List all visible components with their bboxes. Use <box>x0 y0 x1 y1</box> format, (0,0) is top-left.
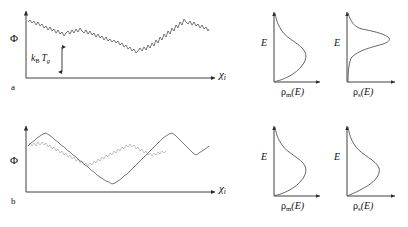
panel-b-dist-s-e-label: E <box>334 152 340 162</box>
panel-b-landscape-axes <box>26 126 215 192</box>
panel-a-dist-s-axes <box>347 12 395 82</box>
panel-b-dist-m-label: ρm(E) <box>281 201 304 212</box>
panel-b-dist-m-curve <box>275 127 306 196</box>
figure-canvas: Φ χi kBTg a E ρm(E) E ρs(E) Φ χi b E ρm(… <box>0 0 408 227</box>
figure-svg <box>0 0 408 227</box>
panel-b-landscape-curve <box>28 133 209 184</box>
panel-b-phi-axis-label: Φ <box>10 155 18 166</box>
panel-a-dist-s-curve <box>348 13 389 82</box>
panel-b-dist-s-label: ρs(E) <box>353 201 373 212</box>
panel-a-landscape-curve <box>28 19 209 53</box>
panel-a-dist-m-e-label: E <box>261 38 267 48</box>
panel-b-letter: b <box>11 197 16 206</box>
panel-a-dist-m-label: ρm(E) <box>281 87 304 98</box>
panel-a-chi-axis-label: χi <box>219 69 226 81</box>
panel-b-dist-s-axes <box>347 126 395 196</box>
panel-b-dist-s-curve <box>348 127 379 196</box>
panel-a-letter: a <box>11 83 15 92</box>
panel-a-kbtg-label: kBTg <box>31 54 50 64</box>
panel-b-dist-m-e-label: E <box>261 152 267 162</box>
panel-a-dist-s-label: ρs(E) <box>353 87 373 98</box>
panel-a-dist-m-curve <box>275 13 306 82</box>
panel-b-chi-axis-label: χi <box>219 183 226 195</box>
panel-a-phi-axis-label: Φ <box>10 33 18 44</box>
panel-a-dist-s-e-label: E <box>334 38 340 48</box>
